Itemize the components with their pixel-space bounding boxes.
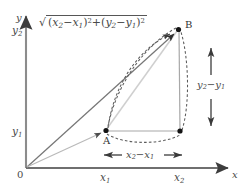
- distance-formula-figure: √(x2−x1)2+(y2−y1)2 y x 0 y2 y1 x1 x2 A B…: [0, 0, 245, 193]
- radicand: (x2−x1)2+(y2−y1)2: [46, 15, 147, 29]
- plus-sign: +: [92, 16, 101, 29]
- axis-group: [26, 16, 228, 168]
- term-y2: y2: [105, 16, 116, 29]
- y-axis-label: y: [16, 13, 22, 23]
- horizontal-segment-label: x2−x1: [126, 150, 154, 161]
- dashed-arc-C-to-B-right: [181, 32, 188, 130]
- radical-sign-wrapper: √(x2−x1)2+(y2−y1)2: [38, 15, 147, 29]
- dashed-arcs: [107, 28, 188, 142]
- power-2: 2: [141, 17, 145, 25]
- distance-formula: √(x2−x1)2+(y2−y1)2: [38, 15, 147, 29]
- triangle-sides: [106, 31, 180, 131]
- term-x2: x2: [52, 16, 63, 29]
- minus-1: −: [63, 16, 72, 29]
- x-tick-label-x1: x1: [100, 172, 110, 184]
- point-C-dot: [177, 128, 182, 133]
- sqrt-glyph: √: [39, 16, 46, 29]
- position-vectors: [27, 34, 174, 167]
- y-tick-label-y2: y2: [12, 25, 22, 37]
- point-label-A: A: [103, 136, 110, 146]
- vector-origin-to-A: [27, 133, 101, 167]
- point-B-dot: [176, 27, 181, 32]
- point-label-B: B: [185, 20, 192, 30]
- y-tick-label-y1: y1: [12, 126, 22, 138]
- side-A-to-B: [106, 31, 177, 130]
- x-axis-label: x: [232, 170, 238, 180]
- vertical-segment-label: y2−y1: [197, 80, 225, 91]
- side-C-to-B: [179, 31, 180, 131]
- point-A-dot: [103, 128, 108, 133]
- origin-label: 0: [17, 170, 23, 180]
- vector-origin-to-B: [27, 34, 174, 167]
- x-tick-label-x2: x2: [174, 172, 184, 184]
- dashed-arc-B-to-A-outer: [108, 28, 176, 126]
- term-y1: y1: [125, 16, 136, 29]
- dashed-arc-A-to-C-lower: [107, 134, 180, 142]
- term-x1: x1: [72, 16, 83, 29]
